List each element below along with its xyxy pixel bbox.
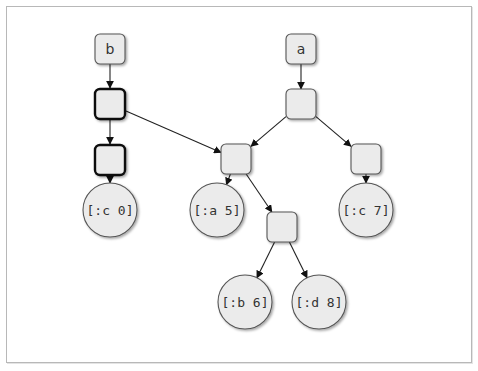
node-label: [:c 0]: [87, 203, 134, 218]
node-nl: [267, 212, 297, 242]
node-nb2: [95, 145, 125, 175]
edge-na1-nm: [251, 117, 286, 147]
box: [286, 89, 316, 119]
edge-nm-nl: [246, 174, 272, 212]
node-a: a: [286, 34, 316, 64]
edge-nl-d8: [289, 242, 307, 278]
bold-box: [95, 89, 125, 119]
box: [267, 212, 297, 242]
node-label: [:a 5]: [194, 203, 241, 218]
leaf-node-b6: [:b 6]: [218, 275, 272, 329]
node-label: [:c 7]: [343, 203, 390, 218]
edge-nl-b6: [257, 242, 275, 278]
leaf-node-c7: [:c 7]: [339, 183, 393, 237]
node-label: b: [106, 41, 115, 57]
edge-na1-nr: [316, 117, 351, 147]
node-label: [:d 8]: [296, 295, 343, 310]
box: [351, 144, 381, 174]
node-na1: [286, 89, 316, 119]
edge-nm-a5: [226, 174, 230, 185]
node-label: a: [297, 41, 306, 57]
tree-diagram: ba[:c 0][:a 5][:c 7][:b 6][:d 8]: [0, 0, 478, 371]
leaf-node-c0: [:c 0]: [83, 183, 137, 237]
leaf-node-d8: [:d 8]: [292, 275, 346, 329]
nodes-layer: ba[:c 0][:a 5][:c 7][:b 6][:d 8]: [83, 34, 393, 329]
node-label: [:b 6]: [222, 295, 269, 310]
bold-box: [95, 145, 125, 175]
node-nr: [351, 144, 381, 174]
node-nm: [221, 144, 251, 174]
node-nb1: [95, 89, 125, 119]
edge-nb1-nm: [126, 111, 221, 152]
box: [221, 144, 251, 174]
node-b: b: [95, 34, 125, 64]
leaf-node-a5: [:a 5]: [190, 183, 244, 237]
